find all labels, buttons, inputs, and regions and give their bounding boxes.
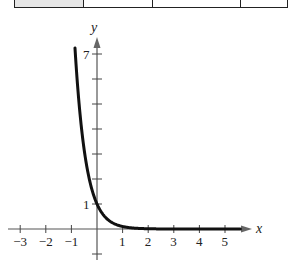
function-curve — [75, 48, 240, 229]
x-axis-arrow-icon — [241, 226, 252, 233]
x-tick-label: 1 — [119, 234, 126, 249]
x-tick-label: 3 — [170, 234, 177, 249]
x-tick-label: −2 — [39, 234, 53, 249]
y-axis-arrow-icon — [94, 37, 101, 48]
y-tick-label: 7 — [83, 47, 90, 62]
x-axis-label: x — [255, 221, 263, 236]
exponential-decay-graph: xy−3−2−11234517 — [0, 0, 291, 263]
x-tick-label: 2 — [145, 234, 152, 249]
x-tick-label: −3 — [13, 234, 27, 249]
y-axis-label: y — [89, 20, 98, 35]
x-tick-label: 4 — [196, 234, 203, 249]
x-tick-label: −1 — [64, 234, 78, 249]
x-tick-label: 5 — [222, 234, 229, 249]
y-tick-label: 1 — [83, 197, 90, 212]
